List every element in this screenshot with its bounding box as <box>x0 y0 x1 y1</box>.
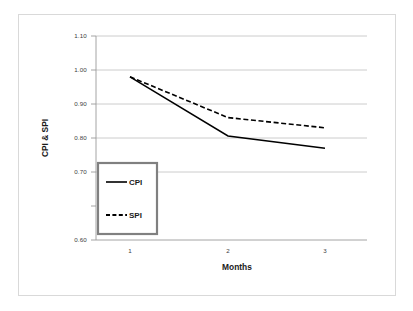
y-tick-label-0.90: 0.90 <box>74 100 87 107</box>
y-tick-label-0.70: 0.70 <box>74 168 87 175</box>
x-axis-title: Months <box>222 262 252 272</box>
cpi-line <box>130 77 325 148</box>
spi-line <box>130 77 325 128</box>
line-chart: 1.10 1.00 0.90 0.80 0.70 0.60 1 2 3 CPI … <box>0 0 413 311</box>
y-axis-title-label: CPI & SPI <box>40 119 50 157</box>
series-cpi <box>130 77 325 148</box>
y-tick-labels: 1.10 1.00 0.90 0.80 0.70 0.60 <box>74 32 87 243</box>
series-spi <box>130 77 325 128</box>
y-tick-label-1.00: 1.00 <box>74 66 87 73</box>
y-tick-label-1.10: 1.10 <box>74 32 87 39</box>
x-tick-label-1: 1 <box>128 247 132 254</box>
legend[interactable]: CPI SPI <box>98 163 157 234</box>
legend-label-cpi: CPI <box>129 178 142 187</box>
y-tick-label-0.60: 0.60 <box>74 236 87 243</box>
x-axis-title-label: Months <box>222 262 252 272</box>
x-tick-label-3: 3 <box>323 247 327 254</box>
legend-box <box>98 163 157 234</box>
y-tick-marks <box>91 36 96 240</box>
x-tick-labels: 1 2 3 <box>128 247 327 254</box>
y-tick-label-0.80: 0.80 <box>74 134 87 141</box>
chart-figure: 1.10 1.00 0.90 0.80 0.70 0.60 1 2 3 CPI … <box>0 0 413 311</box>
y-axis-title: CPI & SPI <box>40 119 50 157</box>
x-tick-label-2: 2 <box>226 247 230 254</box>
legend-label-spi: SPI <box>129 211 142 220</box>
